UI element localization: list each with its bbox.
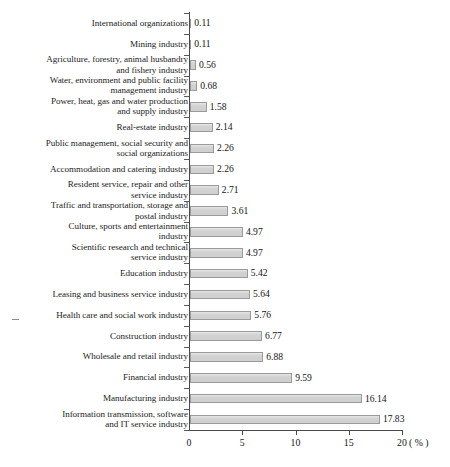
y-axis-tick	[184, 284, 189, 285]
bar-row: Manufacturing industry16.14	[0, 388, 450, 409]
y-axis-tick	[184, 34, 189, 35]
bar	[190, 311, 251, 321]
y-axis-tick	[184, 159, 189, 160]
category-label: Health care and social work industry	[4, 310, 188, 320]
category-label: Water, environment and public facilityma…	[4, 75, 188, 96]
bar	[190, 206, 228, 216]
category-label-line: Water, environment and public facility	[4, 75, 188, 85]
bar-value-label: 5.76	[254, 310, 271, 320]
category-label: Scientific research and technicalservice…	[4, 242, 188, 263]
bar-value-label: 5.64	[253, 289, 270, 299]
bar-value-label: 2.71	[222, 185, 239, 195]
category-label-line: Wholesale and retail industry	[4, 351, 188, 361]
bar-value-label: 0.56	[199, 60, 216, 70]
bar	[190, 19, 191, 29]
bar	[190, 227, 243, 237]
category-label: Wholesale and retail industry	[4, 351, 188, 361]
category-label-line: and IT service industry	[4, 419, 188, 429]
bar-value-label: 2.26	[217, 164, 234, 174]
y-axis-tick	[184, 263, 189, 264]
bar-row: Power, heat, gas and water productionand…	[0, 96, 450, 117]
y-axis-tick	[184, 117, 189, 118]
category-label-line: Agriculture, forestry, animal husbandry	[4, 54, 188, 64]
y-axis-tick	[184, 305, 189, 306]
category-label: Manufacturing industry	[4, 393, 188, 403]
category-label-line: Power, heat, gas and water production	[4, 96, 188, 106]
bar	[190, 331, 262, 341]
category-label-line: service industry	[4, 252, 188, 262]
x-axis-tick	[349, 431, 350, 435]
category-label-line: Traffic and transportation, storage and	[4, 200, 188, 210]
y-axis-tick	[184, 96, 189, 97]
bar	[190, 269, 248, 279]
y-axis-tick	[184, 430, 189, 431]
category-label: Agriculture, forestry, animal husbandrya…	[4, 54, 188, 75]
bar	[190, 144, 214, 154]
bar-value-label: 2.14	[216, 122, 233, 132]
bar-value-label: 0.11	[194, 39, 210, 49]
category-label-line: industry	[4, 231, 188, 241]
category-label-line: Culture, sports and entertainment	[4, 221, 188, 231]
category-label-line: Construction industry	[4, 331, 188, 341]
category-label: Mining industry	[4, 39, 188, 49]
y-axis-tick	[184, 242, 189, 243]
y-axis-tick	[184, 222, 189, 223]
y-axis-tick	[184, 55, 189, 56]
category-label-line: Leasing and business service industry	[4, 289, 188, 299]
bar-row: Accommodation and catering industry2.26	[0, 159, 450, 180]
category-label-line: Public management, social security and	[4, 138, 188, 148]
category-label-line: Mining industry	[4, 39, 188, 49]
x-axis-tick-label: 10	[291, 437, 301, 448]
category-label: Power, heat, gas and water productionand…	[4, 96, 188, 117]
bar	[190, 394, 362, 404]
category-label: Accommodation and catering industry	[4, 164, 188, 174]
y-axis-tick	[184, 388, 189, 389]
category-label: Education industry	[4, 268, 188, 278]
bar-row: Resident service, repair and otherservic…	[0, 180, 450, 201]
category-label-line: Scientific research and technical	[4, 242, 188, 252]
bar-row: Scientific research and technicalservice…	[0, 242, 450, 263]
bar-value-label: 0.68	[200, 81, 217, 91]
y-axis-tick	[184, 13, 189, 14]
bar-row: Financial industry9.59	[0, 367, 450, 388]
bar-value-label: 3.61	[231, 206, 248, 216]
y-axis-tick	[184, 347, 189, 348]
bar-row: Health care and social work industry5.76	[0, 305, 450, 326]
category-label-line: Education industry	[4, 268, 188, 278]
bar-row: International organizations0.11	[0, 13, 450, 34]
category-label-line: social organizations	[4, 148, 188, 158]
category-label-line: and supply industry	[4, 106, 188, 116]
bar-value-label: 0.11	[194, 18, 210, 28]
category-label: Information transmission, softwareand IT…	[4, 409, 188, 430]
bar-row: Culture, sports and entertainmentindustr…	[0, 222, 450, 243]
y-axis-tick	[184, 138, 189, 139]
horizontal-bar-chart: International organizations0.11Mining in…	[0, 0, 450, 467]
x-axis-unit-label: ( % )	[409, 437, 429, 448]
bar-row: Information transmission, softwareand IT…	[0, 409, 450, 430]
bar-row: Agriculture, forestry, animal husbandrya…	[0, 55, 450, 76]
category-label: Traffic and transportation, storage andp…	[4, 200, 188, 221]
bar	[190, 290, 250, 300]
bar-row: Mining industry0.11	[0, 34, 450, 55]
bar-row: Traffic and transportation, storage andp…	[0, 201, 450, 222]
category-label: Culture, sports and entertainmentindustr…	[4, 221, 188, 242]
category-label-line: International organizations	[4, 18, 188, 28]
bar	[190, 373, 292, 383]
bar	[190, 81, 197, 91]
category-label: Construction industry	[4, 331, 188, 341]
bar-value-label: 1.58	[210, 102, 227, 112]
bar-value-label: 4.97	[246, 248, 263, 258]
category-label: Resident service, repair and otherservic…	[4, 179, 188, 200]
bar	[190, 352, 263, 362]
x-axis-tick	[402, 431, 403, 435]
category-label: Real-estate industry	[4, 122, 188, 132]
category-label: International organizations	[4, 18, 188, 28]
bar-value-label: 17.83	[383, 414, 405, 424]
category-label: Leasing and business service industry	[4, 289, 188, 299]
bar-row: Leasing and business service industry5.6…	[0, 284, 450, 305]
category-label-line: and fishery industry	[4, 65, 188, 75]
category-label-line: Accommodation and catering industry	[4, 164, 188, 174]
bar	[190, 248, 243, 258]
bar-value-label: 6.77	[265, 331, 282, 341]
y-axis-tick	[184, 76, 189, 77]
